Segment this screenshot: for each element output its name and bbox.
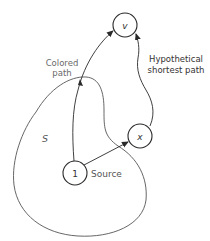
node-x[interactable]: x bbox=[128, 124, 152, 148]
hypothetical-label-line2: shortest path bbox=[148, 65, 205, 75]
source-to-x-edge bbox=[84, 142, 128, 165]
hypothetical-label-line1: Hypothetical bbox=[149, 54, 203, 64]
colored-path-label-line1: Colored bbox=[46, 58, 79, 68]
region-s-label: S bbox=[42, 133, 48, 144]
node-source[interactable]: 1 bbox=[63, 161, 87, 185]
source-label: Source bbox=[91, 169, 122, 179]
region-s-boundary bbox=[14, 77, 147, 236]
diagram-canvas: v x 1 Source S Colored path Hypothetical… bbox=[0, 0, 210, 241]
node-v[interactable]: v bbox=[113, 13, 137, 37]
node-v-label: v bbox=[122, 21, 128, 31]
node-x-label: x bbox=[136, 132, 143, 142]
hypothetical-shortest-path-edge bbox=[136, 34, 153, 126]
node-source-label: 1 bbox=[72, 169, 78, 179]
colored-path-label-line2: path bbox=[52, 68, 71, 78]
colored-path-edge bbox=[73, 31, 113, 161]
